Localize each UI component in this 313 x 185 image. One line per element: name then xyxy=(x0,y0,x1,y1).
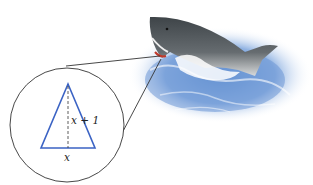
base-label: x xyxy=(64,151,70,163)
height-label: x + 1 xyxy=(71,114,99,126)
shark-tooth-diagram: x + 1 x xyxy=(0,0,313,185)
